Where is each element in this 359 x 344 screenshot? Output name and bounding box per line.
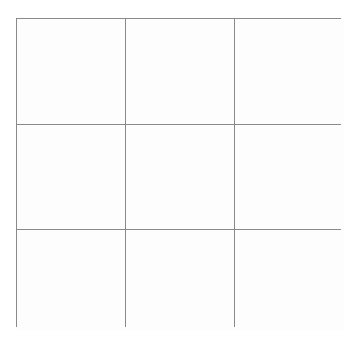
- grid-cell[interactable]: [126, 125, 234, 229]
- grid-cell[interactable]: [126, 230, 234, 330]
- grid-cell[interactable]: [235, 19, 344, 124]
- page-canvas: [0, 0, 359, 344]
- grid-cell[interactable]: [17, 125, 125, 229]
- grid-cell[interactable]: [235, 125, 344, 229]
- grid-cell[interactable]: [17, 19, 125, 124]
- grid-cell[interactable]: [235, 230, 344, 330]
- grid-table: [16, 18, 341, 327]
- grid-cell[interactable]: [17, 230, 125, 330]
- grid-cell[interactable]: [126, 19, 234, 124]
